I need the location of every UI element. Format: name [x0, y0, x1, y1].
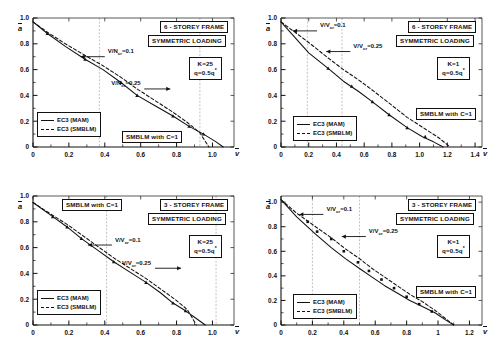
annotation-ratio-0-bottom-left: V/Vcr=0.1 [115, 237, 141, 246]
chart-panel-bottom-right: 00.20.40.60.811.200.20.40.60.81.03 - STO… [248, 178, 495, 355]
svg-text:0.6: 0.6 [20, 244, 29, 251]
legend-label-solid: EC3 (MAM) [313, 120, 345, 129]
svg-text:1.2: 1.2 [465, 329, 474, 336]
legend-entry-dashed: EC3 (SMBLM) [41, 125, 96, 134]
legend-entry-dashed: EC3 (SMBLM) [297, 129, 352, 138]
svg-text:1.0: 1.0 [20, 192, 29, 199]
legend-swatch-solid [297, 124, 310, 125]
svg-text:0: 0 [31, 151, 35, 158]
legend-bottom-right: EC3 (MAM)EC3 (SMBLM) [293, 294, 357, 319]
svg-text:0: 0 [279, 329, 283, 336]
annotation-ratio-0-top-right: V/Vcr=0.1 [320, 22, 346, 31]
legend-entry-solid: EC3 (MAM) [41, 294, 96, 303]
legend-label-solid: EC3 (MAM) [313, 298, 345, 307]
legend-entry-solid: EC3 (MAM) [297, 120, 352, 129]
svg-text:1.2: 1.2 [443, 151, 452, 158]
panel-title-top-left: 6 - STOREY FRAME [160, 21, 228, 33]
panel-title-bottom-left: 3 - STOREY FRAME [160, 199, 228, 211]
svg-text:0.8: 0.8 [268, 223, 277, 230]
panel-params-top-left: K=25q=0.5q* [189, 57, 222, 80]
legend-swatch-solid [41, 120, 54, 121]
panel-params-top-right: K=1q=0.5q* [437, 57, 470, 80]
svg-text:0.2: 0.2 [268, 118, 277, 125]
svg-text:0.8: 0.8 [172, 329, 181, 336]
x-axis-label-top-left: v [235, 149, 239, 158]
svg-text:0.4: 0.4 [100, 329, 109, 336]
svg-text:0.2: 0.2 [20, 296, 29, 303]
y-axis-label-bottom-left: a [18, 202, 22, 211]
legend-top-left: EC3 (MAM)EC3 (SMBLM) [37, 112, 101, 137]
legend-entry-dashed: EC3 (SMBLM) [41, 303, 96, 312]
svg-text:0.4: 0.4 [20, 92, 29, 99]
svg-text:0: 0 [25, 143, 29, 150]
legend-swatch-dashed [297, 311, 310, 312]
panel-subtitle-bottom-left: SYMMETRIC LOADING [148, 213, 226, 225]
svg-text:0.4: 0.4 [332, 151, 341, 158]
svg-text:0.6: 0.6 [20, 66, 29, 73]
legend-swatch-dashed [297, 133, 310, 134]
panel-note-bottom-right: SMBLM with C=1 [416, 286, 476, 298]
svg-text:0.2: 0.2 [64, 151, 73, 158]
legend-swatch-dashed [41, 307, 54, 308]
legend-swatch-solid [297, 302, 310, 303]
y-axis-label-top-left: a [18, 24, 22, 33]
svg-text:0.8: 0.8 [20, 40, 29, 47]
legend-entry-solid: EC3 (MAM) [297, 298, 352, 307]
legend-top-right: EC3 (MAM)EC3 (SMBLM) [293, 116, 357, 141]
annotation-ratio-1-bottom-right: V/Vcr=0.25 [369, 228, 398, 237]
svg-text:0.8: 0.8 [387, 151, 396, 158]
svg-text:1.4: 1.4 [471, 151, 480, 158]
svg-text:0.4: 0.4 [20, 270, 29, 277]
legend-label-dashed: EC3 (SMBLM) [57, 125, 96, 134]
annotation-ratio-1-bottom-left: V/Vcr=0.25 [122, 260, 151, 269]
svg-text:0.2: 0.2 [304, 151, 313, 158]
svg-text:0.8: 0.8 [402, 329, 411, 336]
svg-text:0.2: 0.2 [20, 118, 29, 125]
svg-text:0.6: 0.6 [268, 66, 277, 73]
legend-entry-dashed: EC3 (SMBLM) [297, 307, 352, 316]
svg-text:0.4: 0.4 [100, 151, 109, 158]
svg-text:0.8: 0.8 [172, 151, 181, 158]
svg-text:0.6: 0.6 [360, 151, 369, 158]
svg-text:1.0: 1.0 [20, 14, 29, 21]
svg-text:0.6: 0.6 [136, 329, 145, 336]
svg-text:1: 1 [436, 329, 440, 336]
svg-text:0.6: 0.6 [268, 248, 277, 255]
panel-params-bottom-left: K=25q=0.5q* [189, 235, 222, 258]
svg-text:0.6: 0.6 [136, 151, 145, 158]
legend-label-dashed: EC3 (SMBLM) [313, 129, 352, 138]
svg-text:1.0: 1.0 [208, 329, 217, 336]
panel-note-bottom-left: SMBLM with C=1 [62, 199, 122, 211]
chart-panel-bottom-left: 00.20.40.60.81.000.20.40.60.81.03 - STOR… [0, 178, 247, 355]
chart-panel-top-right: 00.20.40.60.81.01.21.400.20.40.60.81.06 … [248, 0, 495, 177]
panel-title-bottom-right: 3 - STOREY FRAME [408, 199, 476, 211]
panel-note-top-left: SMBLM with C=1 [122, 131, 182, 143]
legend-swatch-dashed [41, 129, 54, 130]
x-axis-label-bottom-left: v [235, 327, 239, 336]
svg-text:0.4: 0.4 [268, 272, 277, 279]
svg-text:0.2: 0.2 [64, 329, 73, 336]
annotation-ratio-1-top-left: V/Ncr=0.25 [111, 80, 140, 89]
svg-text:0.6: 0.6 [371, 329, 380, 336]
svg-text:0.2: 0.2 [308, 329, 317, 336]
svg-text:0.8: 0.8 [268, 40, 277, 47]
annotation-ratio-0-top-left: V/Ncr=0.1 [108, 48, 134, 57]
panel-note-top-right: SMBLM with C=1 [416, 108, 476, 120]
svg-text:0: 0 [31, 329, 35, 336]
svg-text:0: 0 [25, 321, 29, 328]
legend-entry-solid: EC3 (MAM) [41, 116, 96, 125]
svg-text:0.4: 0.4 [339, 329, 348, 336]
panel-subtitle-top-left: SYMMETRIC LOADING [148, 35, 226, 47]
panel-params-bottom-right: K=1q=0.5q* [437, 235, 470, 258]
svg-text:1.0: 1.0 [268, 14, 277, 21]
svg-text:0: 0 [273, 143, 277, 150]
svg-text:0.8: 0.8 [20, 218, 29, 225]
y-axis-label-bottom-right: a [266, 202, 270, 211]
x-axis-label-bottom-right: v [483, 327, 487, 336]
legend-label-dashed: EC3 (SMBLM) [57, 303, 96, 312]
svg-text:0.4: 0.4 [268, 92, 277, 99]
panel-subtitle-top-right: SYMMETRIC LOADING [396, 35, 474, 47]
legend-label-dashed: EC3 (SMBLM) [313, 307, 352, 316]
svg-text:1.0: 1.0 [208, 151, 217, 158]
legend-swatch-solid [41, 298, 54, 299]
